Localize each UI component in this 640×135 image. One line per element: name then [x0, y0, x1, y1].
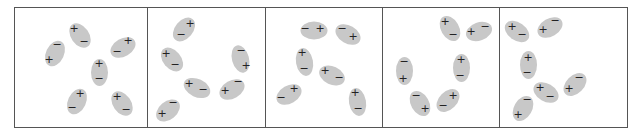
plus-sign-icon: + — [220, 85, 230, 96]
plus-sign-icon: + — [315, 23, 325, 34]
plus-sign-icon: + — [320, 65, 330, 76]
panel-divider — [147, 7, 148, 128]
minus-sign-icon: − — [337, 23, 347, 34]
minus-sign-icon: − — [448, 29, 458, 40]
plus-sign-icon: + — [507, 21, 517, 32]
minus-sign-icon: − — [67, 102, 77, 113]
minus-sign-icon: − — [550, 15, 560, 26]
minus-sign-icon: − — [121, 104, 131, 115]
plus-sign-icon: + — [75, 88, 85, 99]
minus-sign-icon: − — [574, 72, 584, 83]
plus-sign-icon: + — [538, 24, 548, 35]
panel-divider — [382, 7, 383, 128]
minus-sign-icon: − — [399, 56, 409, 67]
minus-sign-icon: − — [545, 91, 555, 102]
plus-sign-icon: + — [456, 54, 466, 65]
plus-sign-icon: + — [157, 108, 167, 119]
minus-sign-icon: − — [79, 36, 89, 47]
minus-sign-icon: − — [233, 76, 243, 87]
plus-sign-icon: + — [564, 83, 574, 94]
panel-divider — [499, 7, 500, 128]
panel-divider — [265, 7, 266, 128]
plus-sign-icon: + — [348, 31, 358, 42]
plus-sign-icon: + — [185, 18, 195, 29]
minus-sign-icon: − — [300, 23, 310, 34]
minus-sign-icon: − — [299, 63, 309, 74]
plus-sign-icon: + — [350, 87, 360, 98]
minus-sign-icon: − — [522, 94, 532, 105]
minus-sign-icon: − — [276, 92, 286, 103]
minus-sign-icon: − — [522, 67, 532, 78]
minus-sign-icon: − — [236, 45, 246, 56]
minus-sign-icon: − — [334, 72, 344, 83]
minus-sign-icon: − — [168, 97, 178, 108]
plus-sign-icon: + — [123, 35, 133, 46]
plus-sign-icon: + — [289, 83, 299, 94]
minus-sign-icon: − — [353, 103, 363, 114]
minus-sign-icon: − — [112, 46, 122, 57]
minus-sign-icon: − — [455, 70, 465, 81]
minus-sign-icon: − — [517, 29, 527, 40]
minus-sign-icon: − — [198, 84, 208, 95]
plus-sign-icon: + — [523, 52, 533, 63]
plus-sign-icon: + — [398, 73, 408, 84]
minus-sign-icon: − — [170, 59, 180, 70]
plus-sign-icon: + — [94, 58, 104, 69]
minus-sign-icon: − — [52, 39, 62, 50]
plus-sign-icon: + — [69, 23, 79, 34]
minus-sign-icon: − — [411, 90, 421, 101]
minus-sign-icon: − — [176, 29, 186, 40]
plus-sign-icon: + — [448, 90, 458, 101]
plus-sign-icon: + — [184, 78, 194, 89]
plus-sign-icon: + — [513, 109, 523, 120]
plus-sign-icon: + — [440, 16, 450, 27]
plus-sign-icon: + — [44, 54, 54, 65]
minus-sign-icon: − — [94, 73, 104, 84]
plus-sign-icon: + — [420, 103, 430, 114]
plus-sign-icon: + — [535, 82, 545, 93]
minus-sign-icon: − — [438, 100, 448, 111]
plus-sign-icon: + — [297, 47, 307, 58]
plus-sign-icon: + — [112, 91, 122, 102]
minus-sign-icon: − — [480, 21, 490, 32]
plus-sign-icon: + — [241, 60, 251, 71]
plus-sign-icon: + — [466, 26, 476, 37]
